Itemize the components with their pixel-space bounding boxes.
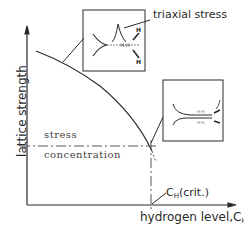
x-axis-text: hydrogen level,C xyxy=(140,210,241,224)
critical-c: C xyxy=(166,186,174,199)
inset-pointer-2 xyxy=(151,117,163,143)
x-axis-arrow-icon xyxy=(228,203,236,207)
curve-extension xyxy=(152,151,156,162)
triaxial-stress-label: triaxial stress xyxy=(153,8,227,21)
atom-h-2: H xyxy=(136,58,141,65)
y-axis-label: lattice strength xyxy=(15,51,29,171)
critical-pointer xyxy=(152,193,166,204)
y-axis-arrow-icon xyxy=(25,26,29,34)
stress-label: stress xyxy=(44,129,77,140)
critical-level-label: CH(crit.) xyxy=(166,186,209,200)
svg-text:·H·H·: ·H·H· xyxy=(119,42,132,48)
x-axis-sub: H xyxy=(241,217,244,225)
x-axis-label: hydrogen level,CH xyxy=(140,210,244,225)
svg-text:·H·H: ·H·H xyxy=(196,120,205,125)
critical-suffix: (crit.) xyxy=(179,186,209,199)
svg-text:·H·H: ·H·H xyxy=(196,109,205,114)
atom-h-1: H xyxy=(136,26,141,33)
concentration-label: concentration xyxy=(44,149,121,160)
inset-triaxial-stress: ·H·H· H H xyxy=(63,10,150,71)
inset-pointer xyxy=(63,38,84,62)
inset-crack-tip: ·H·H ·H·H xyxy=(151,80,223,143)
